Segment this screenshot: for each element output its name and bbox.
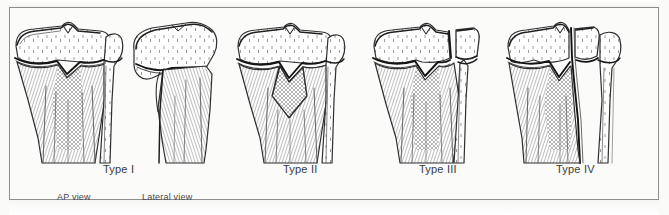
panel-label-type-1: Type I [103, 163, 134, 175]
view-label-lateral: Lateral view [142, 192, 192, 202]
panel-label-type-4: Type IV [556, 163, 595, 175]
scan-edge-top [0, 0, 669, 7]
scan-edge-right [659, 0, 669, 215]
scan-edge-bottom [0, 200, 669, 215]
panel-label-type-3: Type III [419, 163, 457, 175]
scan-edge-left [0, 0, 9, 215]
view-label-ap: AP view [57, 192, 91, 202]
panel-label-type-2: Type II [283, 163, 317, 175]
figure-container: Type I Type II Type III Type IV AP view … [0, 0, 669, 215]
